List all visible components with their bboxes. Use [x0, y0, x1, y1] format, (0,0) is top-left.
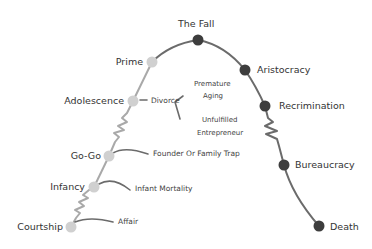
trap-unfulfilled-line1: Unfulfilled [202, 117, 237, 124]
infant-mortality-line [99, 181, 130, 190]
affair-line [75, 219, 113, 222]
label-recrimination: Recrimination [279, 101, 345, 111]
node-infancy [89, 182, 100, 193]
label-gogo: Go-Go [0, 151, 101, 161]
label-prime: Prime [0, 57, 143, 67]
node-adolescence [128, 96, 139, 107]
label-bureaucracy: Bureaucracy [295, 160, 355, 170]
node-bureaucracy [279, 160, 290, 171]
trap-affair: Affair [118, 218, 138, 226]
trap-founder-family: Founder Or Family Trap [153, 150, 240, 158]
trap-infant-mortality: Infant Mortality [135, 185, 193, 193]
growth-nodes [66, 57, 158, 233]
label-infancy: Infancy [0, 182, 85, 192]
node-gogo [104, 151, 115, 162]
trap-premature-line1: Premature [194, 81, 230, 88]
label-adolescence: Adolescence [0, 96, 124, 106]
founder-trap-line [113, 150, 148, 154]
lifecycle-diagram: Courtship Infancy Go-Go Adolescence Prim… [0, 0, 372, 249]
node-the-fall [193, 35, 204, 46]
label-the-fall: The Fall [178, 19, 214, 29]
trap-divorce: Divorce [151, 97, 180, 105]
label-aristocracy: Aristocracy [257, 65, 310, 75]
node-prime [147, 57, 158, 68]
trap-unfulfilled-line2: Entrepreneur [197, 130, 243, 137]
label-death: Death [330, 222, 359, 232]
node-death [314, 221, 325, 232]
growth-curve [71, 62, 152, 227]
node-courtship [66, 222, 77, 233]
trap-premature-line2: Aging [203, 93, 223, 100]
node-recrimination [260, 101, 271, 112]
label-courtship: Courtship [0, 222, 63, 232]
node-aristocracy [240, 65, 251, 76]
lifecycle-curve-graphic [0, 0, 372, 249]
